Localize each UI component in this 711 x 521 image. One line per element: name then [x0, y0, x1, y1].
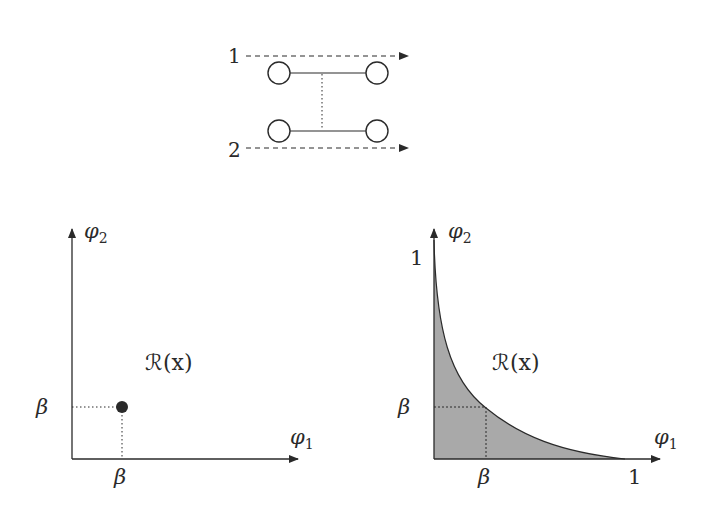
node-top-left [268, 62, 290, 84]
region-label: ℛ(x) [145, 350, 193, 375]
y-axis-label: φ2 [84, 219, 108, 246]
y-axis-label: φ2 [448, 219, 472, 246]
x-tick-beta: β [477, 465, 490, 489]
right-plot: φ2 φ1 1 β β 1 ℛ(x) [397, 219, 678, 489]
left-plot: φ2 φ1 β β ℛ(x) [35, 219, 314, 489]
region-label: ℛ(x) [492, 350, 540, 375]
y-tick-beta: β [397, 395, 410, 419]
x-axis-label: φ1 [290, 425, 314, 452]
path-label-2: 2 [228, 138, 241, 162]
y-tick-one: 1 [410, 246, 423, 270]
node-bottom-left [268, 120, 290, 142]
y-tick-beta: β [35, 395, 48, 419]
x-axis-label: φ1 [654, 425, 678, 452]
top-diagram: 1 2 [228, 44, 408, 162]
node-bottom-right [366, 120, 388, 142]
x-tick-one: 1 [628, 465, 641, 489]
x-tick-beta: β [113, 465, 126, 489]
point-beta [116, 401, 128, 413]
figure: 1 2 φ2 φ1 β β ℛ(x) φ2 φ1 1 β [0, 0, 711, 521]
path-label-1: 1 [228, 44, 241, 68]
node-top-right [366, 62, 388, 84]
